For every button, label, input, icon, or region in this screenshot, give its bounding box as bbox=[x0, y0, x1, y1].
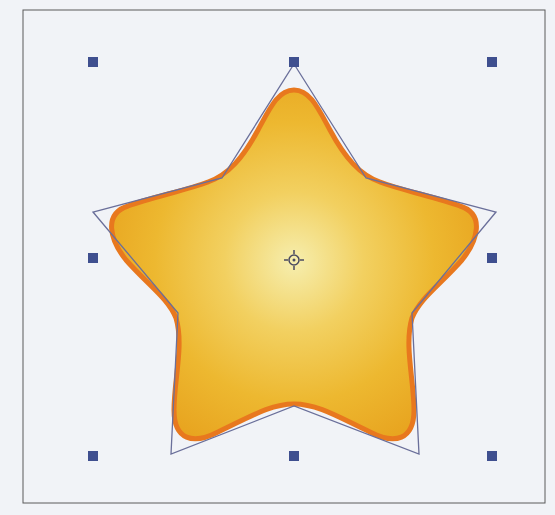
handle-top-right[interactable] bbox=[487, 57, 497, 67]
handle-top-center[interactable] bbox=[289, 57, 299, 67]
drawing-canvas[interactable] bbox=[0, 0, 555, 515]
handle-bottom-right[interactable] bbox=[487, 451, 497, 461]
handle-bottom-left[interactable] bbox=[88, 451, 98, 461]
handle-middle-right[interactable] bbox=[487, 253, 497, 263]
handle-top-left[interactable] bbox=[88, 57, 98, 67]
handle-middle-left[interactable] bbox=[88, 253, 98, 263]
handle-bottom-center[interactable] bbox=[289, 451, 299, 461]
